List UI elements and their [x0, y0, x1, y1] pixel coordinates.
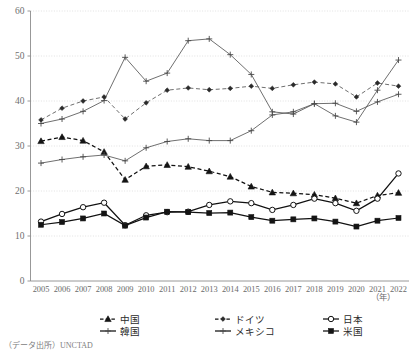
- data-point-4-13: [312, 196, 317, 201]
- x-tick-label-2005: 2005: [33, 285, 50, 294]
- data-point-3-8: [206, 138, 212, 144]
- legend-item-1[interactable]: ドイツ: [215, 314, 265, 325]
- data-point-1-6: [164, 70, 170, 76]
- x-tick-label-2017: 2017: [285, 285, 302, 294]
- data-point-5-15: [354, 224, 359, 229]
- y-tick-label-30: 30: [15, 141, 25, 151]
- source-note: （データ出所）UNCTAD: [4, 340, 93, 350]
- data-point-5-3: [102, 211, 107, 216]
- data-point-5-6: [165, 209, 170, 214]
- data-point-2-9: [228, 86, 233, 91]
- data-point-4-1: [59, 211, 64, 216]
- x-tick-label-2010: 2010: [138, 285, 155, 294]
- legend-label-4: メキシコ: [235, 326, 275, 337]
- data-point-2-10: [249, 84, 254, 89]
- x-tick-label-2020: 2020: [348, 285, 365, 294]
- data-point-4-14: [333, 200, 338, 205]
- x-tick-label-2006: 2006: [54, 285, 71, 294]
- data-point-5-12: [291, 217, 296, 222]
- data-point-5-8: [207, 211, 212, 216]
- series-line-2: [41, 82, 398, 120]
- data-point-0-4: [122, 177, 128, 183]
- data-point-2-6: [165, 88, 170, 93]
- x-tick-label-2011: 2011: [159, 285, 175, 294]
- data-point-4-12: [291, 202, 296, 207]
- data-point-0-9: [227, 173, 233, 179]
- data-point-3-6: [164, 139, 170, 145]
- data-point-2-11: [270, 86, 275, 91]
- data-point-2-12: [291, 82, 296, 87]
- series-line-5: [41, 212, 398, 227]
- data-point-5-16: [375, 218, 380, 223]
- data-point-2-13: [312, 80, 317, 85]
- legend-item-2[interactable]: 日本: [323, 314, 363, 325]
- series-line-0: [41, 137, 398, 203]
- data-point-3-16: [374, 99, 380, 105]
- data-point-3-15: [353, 108, 359, 114]
- legend-marker-5: [329, 329, 334, 334]
- data-point-4-15: [354, 208, 359, 213]
- x-tick-label-2015: 2015: [243, 285, 260, 294]
- legend-label-5: 米国: [343, 326, 363, 337]
- data-point-5-4: [123, 223, 128, 228]
- data-point-3-1: [59, 157, 65, 163]
- data-point-5-2: [81, 216, 86, 221]
- data-point-2-15: [354, 95, 359, 100]
- data-point-0-1: [59, 134, 65, 140]
- data-point-5-10: [249, 215, 254, 220]
- data-point-5-13: [312, 216, 317, 221]
- data-point-5-14: [333, 219, 338, 224]
- legend-marker-3: [105, 328, 111, 334]
- data-point-4-17: [396, 171, 401, 176]
- series-line-3: [41, 94, 398, 163]
- data-point-2-17: [396, 84, 401, 89]
- x-tick-label-2013: 2013: [201, 285, 218, 294]
- data-point-1-1: [59, 116, 65, 122]
- data-point-3-0: [38, 160, 44, 166]
- data-point-5-5: [144, 215, 149, 220]
- legend-label-2: 日本: [343, 314, 363, 325]
- y-tick-label-60: 60: [15, 6, 25, 16]
- data-point-4-16: [375, 196, 380, 201]
- y-tick-label-50: 50: [15, 51, 25, 61]
- legend-label-3: 韓国: [120, 326, 140, 337]
- data-point-5-17: [396, 216, 401, 221]
- x-tick-label-2012: 2012: [180, 285, 197, 294]
- x-tick-label-2019: 2019: [327, 285, 344, 294]
- data-point-5-0: [39, 222, 44, 227]
- line-chart: 6050403020100 20052006200720082009201020…: [0, 0, 417, 351]
- data-point-4-8: [207, 202, 212, 207]
- series-layer: [38, 36, 402, 229]
- x-tick-label-2009: 2009: [117, 285, 134, 294]
- legend-label-1: ドイツ: [235, 314, 265, 325]
- legend-item-4[interactable]: メキシコ: [215, 326, 275, 337]
- data-point-5-1: [60, 220, 65, 225]
- x-tick-label-2016: 2016: [264, 285, 281, 294]
- data-point-1-7: [185, 38, 191, 44]
- legend-item-0[interactable]: 中国: [100, 314, 140, 325]
- series-5: [39, 209, 401, 229]
- data-point-2-16: [375, 81, 380, 86]
- data-point-2-8: [207, 87, 212, 92]
- data-point-1-2: [80, 108, 86, 114]
- x-tick-label-2014: 2014: [222, 285, 240, 294]
- series-3: [38, 91, 401, 166]
- data-point-2-2: [81, 99, 86, 104]
- data-point-3-9: [227, 138, 233, 144]
- legend-item-5[interactable]: 米国: [323, 326, 363, 337]
- legend-marker-2: [328, 316, 333, 321]
- data-point-4-10: [249, 200, 254, 205]
- data-point-4-9: [228, 199, 233, 204]
- x-tick-label-2007: 2007: [75, 285, 92, 294]
- data-point-3-13: [311, 101, 317, 107]
- data-point-2-7: [186, 86, 191, 91]
- data-point-5-7: [186, 210, 191, 215]
- data-point-0-10: [248, 183, 254, 189]
- x-axis-unit-label: （年）: [371, 292, 395, 302]
- chart-legend: 中国ドイツ日本韓国メキシコ米国: [100, 314, 363, 337]
- data-point-4-11: [270, 207, 275, 212]
- series-0: [38, 134, 402, 206]
- data-point-3-2: [80, 154, 86, 160]
- x-tick-label-2018: 2018: [306, 285, 323, 294]
- legend-item-3[interactable]: 韓国: [100, 326, 140, 337]
